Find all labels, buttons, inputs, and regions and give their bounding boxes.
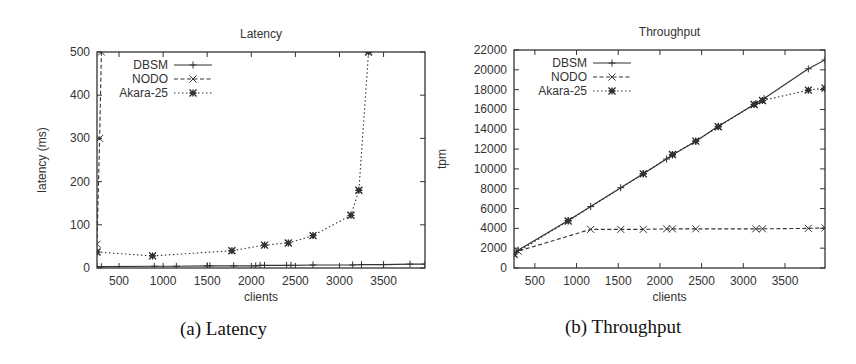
plus-marker-icon bbox=[407, 261, 414, 268]
x-tick-label: 1500 bbox=[605, 274, 632, 288]
star-marker-center bbox=[760, 99, 764, 103]
throughput-chart: Throughput020004000600080001000012000140… bbox=[430, 0, 856, 364]
plus-marker-icon bbox=[609, 60, 616, 67]
legend-label: Akara-25 bbox=[119, 86, 168, 100]
y-tick-label: 100 bbox=[70, 218, 90, 232]
chart-title: Throughput bbox=[639, 25, 701, 39]
y-tick-label: 0 bbox=[83, 261, 90, 275]
star-marker-center bbox=[191, 91, 195, 95]
y-axis-label: tpm bbox=[435, 149, 449, 169]
star-marker-center bbox=[716, 125, 720, 129]
y-tick-label: 4000 bbox=[480, 221, 507, 235]
x-tick-label: 500 bbox=[109, 274, 129, 288]
x-tick-label: 3000 bbox=[326, 274, 353, 288]
plus-marker-icon bbox=[190, 62, 197, 69]
star-marker-center bbox=[641, 172, 645, 176]
latency-chart: Latency010020030040050050010001500200025… bbox=[0, 0, 430, 364]
x-tick-label: 2500 bbox=[282, 274, 309, 288]
x-tick-label: 1000 bbox=[563, 274, 590, 288]
latency-chart-panel: Latency010020030040050050010001500200025… bbox=[0, 0, 430, 364]
plus-marker-icon bbox=[822, 56, 829, 63]
star-marker-center bbox=[752, 103, 756, 107]
plus-marker-icon bbox=[617, 184, 624, 191]
throughput-chart-panel: Throughput020004000600080001000012000140… bbox=[430, 0, 856, 364]
star-marker-center bbox=[512, 252, 516, 256]
y-axis-label: latency (ms) bbox=[35, 127, 49, 192]
plus-marker-icon bbox=[663, 156, 670, 163]
star-marker-center bbox=[151, 254, 155, 258]
y-tick-label: 18000 bbox=[474, 83, 508, 97]
y-axis: 0100200300400500 bbox=[70, 45, 425, 275]
x-tick-label: 3500 bbox=[772, 274, 799, 288]
y-tick-label: 0 bbox=[500, 261, 507, 275]
y-tick-label: 500 bbox=[70, 45, 90, 59]
x-tick-label: 2000 bbox=[238, 274, 265, 288]
y-tick-label: 14000 bbox=[474, 122, 508, 136]
y-tick-label: 200 bbox=[70, 175, 90, 189]
x-tick-label: 1500 bbox=[194, 274, 221, 288]
star-marker-center bbox=[610, 89, 614, 93]
star-marker-center bbox=[95, 250, 99, 254]
legend-label: Akara-25 bbox=[538, 84, 587, 98]
plus-marker-icon bbox=[173, 263, 180, 270]
y-tick-label: 8000 bbox=[480, 182, 507, 196]
star-marker-center bbox=[263, 243, 267, 247]
legend: DBSMNODOAkara-25 bbox=[538, 56, 631, 98]
x-tick-label: 3000 bbox=[730, 274, 757, 288]
star-marker-center bbox=[357, 188, 361, 192]
x-axis-label: clients bbox=[244, 290, 278, 304]
x-marker-icon bbox=[587, 226, 594, 233]
star-marker-center bbox=[349, 213, 353, 217]
x-tick-label: 2500 bbox=[688, 274, 715, 288]
star-marker-center bbox=[823, 86, 827, 90]
legend: DBSMNODOAkara-25 bbox=[119, 58, 212, 100]
legend-label: NODO bbox=[551, 70, 587, 84]
star-marker-center bbox=[566, 219, 570, 223]
legend-label: DBSM bbox=[552, 56, 587, 70]
plus-marker-icon bbox=[98, 263, 105, 270]
x-axis-label: clients bbox=[652, 290, 686, 304]
series-line bbox=[97, 52, 101, 244]
x-tick-label: 3500 bbox=[370, 274, 397, 288]
throughput-caption: (b) Throughput bbox=[565, 316, 681, 338]
y-tick-label: 22000 bbox=[474, 43, 508, 57]
y-tick-label: 400 bbox=[70, 88, 90, 102]
star-marker-center bbox=[694, 139, 698, 143]
legend-label: NODO bbox=[132, 72, 168, 86]
plus-marker-icon bbox=[151, 263, 158, 270]
x-tick-label: 500 bbox=[525, 274, 545, 288]
y-axis: 0200040006000800010000120001400016000180… bbox=[474, 43, 825, 275]
x-tick-label: 2000 bbox=[647, 274, 674, 288]
y-tick-label: 16000 bbox=[474, 102, 508, 116]
plus-marker-icon bbox=[358, 261, 365, 268]
series-dbsm bbox=[94, 261, 429, 271]
y-tick-label: 12000 bbox=[474, 142, 508, 156]
y-tick-label: 2000 bbox=[480, 241, 507, 255]
legend-label: DBSM bbox=[133, 58, 168, 72]
latency-caption: (a) Latency bbox=[180, 318, 267, 340]
y-tick-label: 20000 bbox=[474, 63, 508, 77]
plus-marker-icon bbox=[380, 261, 387, 268]
y-tick-label: 10000 bbox=[474, 162, 508, 176]
x-tick-label: 1000 bbox=[150, 274, 177, 288]
star-marker-center bbox=[367, 50, 371, 54]
plus-marker-icon bbox=[587, 203, 594, 210]
star-marker-center bbox=[670, 153, 674, 157]
series-nodo bbox=[511, 224, 829, 257]
plus-marker-icon bbox=[422, 261, 429, 268]
star-marker-center bbox=[230, 249, 234, 253]
star-marker-center bbox=[286, 241, 290, 245]
plus-marker-icon bbox=[805, 65, 812, 72]
y-tick-label: 6000 bbox=[480, 202, 507, 216]
chart-title: Latency bbox=[240, 27, 282, 41]
star-marker-center bbox=[311, 234, 315, 238]
y-tick-label: 300 bbox=[70, 131, 90, 145]
series-nodo bbox=[94, 49, 105, 248]
star-marker-center bbox=[806, 88, 810, 92]
